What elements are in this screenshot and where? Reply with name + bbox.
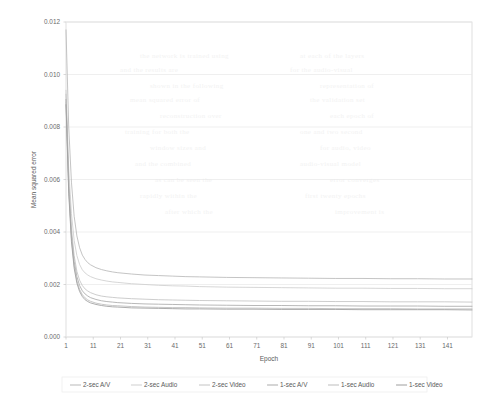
x-tick-label: 61 [226, 342, 234, 349]
legend-label: 1-sec Video [409, 381, 443, 388]
series-line-2-sec-video [66, 94, 472, 302]
series-line-1-sec-a-v [66, 99, 472, 306]
x-axis-ticks: 1112131415161718191101111121131141 [64, 337, 453, 349]
x-tick-label: 11 [90, 342, 97, 349]
x-tick-label: 141 [442, 342, 453, 349]
series-line-2-sec-a-v [66, 30, 472, 279]
x-tick-label: 51 [199, 342, 207, 349]
y-tick-label: 0.008 [44, 123, 60, 130]
x-tick-label: 81 [280, 342, 288, 349]
y-tick-label: 0.012 [44, 18, 60, 25]
y-tick-label: 0.010 [44, 71, 60, 78]
axis-labels: EpochMean squared error [30, 150, 279, 363]
chart-figure: the network is trained usingat each of t… [0, 0, 489, 408]
x-axis-title: Epoch [260, 355, 279, 363]
series-line-1-sec-video [66, 105, 472, 310]
y-tick-label: 0.002 [44, 281, 60, 288]
x-tick-label: 121 [388, 342, 399, 349]
legend-label: 2-sec A/V [83, 381, 111, 388]
legend-label: 1-sec Audio [341, 381, 375, 388]
x-tick-label: 41 [171, 342, 179, 349]
y-axis-title: Mean squared error [30, 150, 38, 208]
y-tick-label: 0.004 [44, 228, 60, 235]
gridlines [66, 22, 472, 337]
y-tick-label: 0.000 [44, 333, 60, 340]
x-tick-label: 21 [117, 342, 125, 349]
x-tick-label: 1 [64, 342, 68, 349]
series-line-2-sec-audio [66, 90, 472, 288]
legend-label: 2-sec Video [212, 381, 246, 388]
x-tick-label: 111 [361, 342, 371, 349]
y-axis-ticks: 0.0120.0100.0080.0060.0040.0020.000 [44, 18, 66, 340]
legend-label: 2-sec Audio [144, 381, 178, 388]
series-lines [66, 30, 472, 310]
chart-legend: 2-sec A/V2-sec Audio2-sec Video1-sec A/V… [62, 377, 443, 392]
x-tick-label: 101 [333, 342, 344, 349]
legend-label: 1-sec A/V [280, 381, 308, 388]
x-tick-label: 31 [144, 342, 152, 349]
x-tick-label: 71 [253, 342, 261, 349]
x-tick-label: 91 [308, 342, 316, 349]
x-tick-label: 131 [415, 342, 426, 349]
chart-canvas: 0.0120.0100.0080.0060.0040.0020.000 1112… [0, 0, 489, 408]
y-tick-label: 0.006 [44, 176, 60, 183]
